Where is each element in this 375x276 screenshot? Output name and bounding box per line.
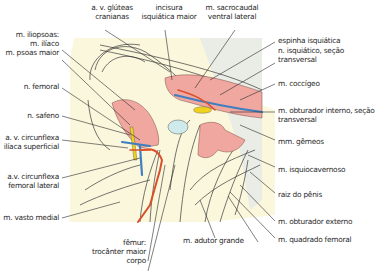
label-line: ilíaca superficial [0, 142, 59, 151]
label-line: m. obturador interno, seção [278, 106, 375, 115]
label-vastus-medialis: m. vasto medial [0, 213, 59, 222]
label-line: fêmur: [60, 238, 146, 247]
label-saphenous-nerve: n. safeno [0, 111, 59, 120]
label-line: isquiática maior [140, 12, 198, 21]
label-line: m. ilíaco [0, 39, 59, 48]
label-quadratus-femoris: m. quadrado femoral [278, 235, 351, 244]
label-femoral-nerve: n. femoral [0, 82, 59, 91]
acetabulum [168, 120, 188, 134]
label-sacrocaudal-muscle: m. sacrocaudal ventral lateral [203, 3, 261, 21]
label-adductor-magnus: m. adutor grande [183, 236, 244, 245]
label-line: m. iliopsoas: [0, 30, 59, 39]
label-line: a. v. circunflexa [0, 133, 59, 142]
label-penis-root: raiz do pênis [278, 190, 322, 199]
label-line: corpo [60, 256, 146, 265]
label-ischiocavernosus: m. isquiocavernoso [278, 165, 345, 174]
label-iliopsoas: m. iliopsoas: m. ilíaco m. psoas maior [0, 30, 59, 57]
label-line: a.v. circunflexa [0, 172, 59, 181]
label-lateral-circumflex-femoral: a.v. circunflexa femoral lateral [0, 172, 59, 190]
sciatic-nerve [194, 107, 212, 113]
label-line: a. v. glúteas [82, 3, 142, 12]
label-femur: fêmur: trocânter maior corpo [60, 238, 146, 265]
label-internal-obturator: m. obturador interno, seção transversal [278, 106, 375, 124]
label-line: n. isquiático, seção [278, 46, 344, 55]
label-line: transversal [278, 55, 344, 64]
label-gemelli: mm. gêmeos [278, 137, 324, 146]
label-coccygeus: m. coccígeo [278, 79, 320, 88]
label-gluteal-vessels: a. v. glúteas cranianas [82, 3, 142, 21]
label-line: cranianas [82, 12, 142, 21]
label-line: m. psoas maior [0, 48, 59, 57]
label-line: incisura [140, 3, 198, 12]
label-line: transversal [278, 115, 375, 124]
label-greater-sciatic-notch: incisura isquiática maior [140, 3, 198, 21]
label-superficial-circumflex-iliac: a. v. circunflexa ilíaca superficial [0, 133, 59, 151]
label-line: m. sacrocaudal [203, 3, 261, 12]
label-line: ventral lateral [203, 12, 261, 21]
label-ischial-spine: espinha isquiática [278, 36, 340, 45]
label-sciatic-nerve: n. isquiático, seção transversal [278, 46, 344, 64]
label-line: trocânter maior [60, 247, 146, 256]
label-external-obturator: m. obturador externo [278, 217, 352, 226]
label-line: femoral lateral [0, 181, 59, 190]
